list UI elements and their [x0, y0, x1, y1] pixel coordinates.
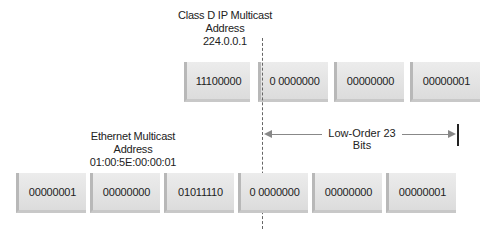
mac-title-line2: Address	[58, 143, 208, 156]
ip-octet-1: 11100000	[184, 62, 250, 102]
mac-octet-6: 00000001	[386, 173, 456, 213]
ip-octet-2: 0 0000000	[258, 62, 328, 102]
span-end-marker	[457, 124, 459, 146]
ip-title-line2: Address	[150, 22, 300, 35]
mac-address-label: Ethernet Multicast Address 01:00:5E:00:0…	[58, 130, 208, 169]
mac-octet-4: 0 0000000	[238, 173, 308, 213]
ip-address-value: 224.0.0.1	[150, 35, 300, 48]
ip-octet-4: 00000001	[410, 62, 480, 102]
span-label: Low-Order 23 Bits	[322, 127, 402, 151]
ip-title-line1: Class D IP Multicast	[150, 9, 300, 22]
ip-octet-3: 00000000	[334, 62, 404, 102]
ip-address-label: Class D IP Multicast Address 224.0.0.1	[150, 9, 300, 48]
arrow-right-icon	[448, 130, 456, 138]
mac-octet-5: 00000000	[312, 173, 382, 213]
mac-octet-1: 00000001	[16, 173, 86, 213]
mac-address-value: 01:00:5E:00:00:01	[58, 156, 208, 169]
mac-octet-3: 01011110	[164, 173, 234, 213]
mac-title-line1: Ethernet Multicast	[58, 130, 208, 143]
mac-octet-2: 00000000	[90, 173, 160, 213]
